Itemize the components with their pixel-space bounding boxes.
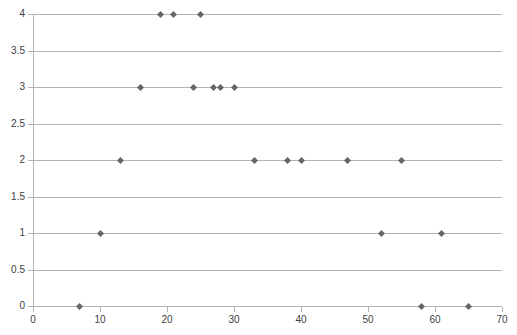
y-axis-tick-label: 2 [0,155,25,165]
y-tick-mark [28,160,33,161]
x-axis-tick-label: 70 [482,315,517,325]
x-tick-mark [502,307,503,312]
x-axis-tick-label: 30 [214,315,254,325]
y-tick-mark [28,14,33,15]
x-axis-tick-label: 60 [415,315,455,325]
x-tick-mark [33,307,34,312]
x-tick-mark [435,307,436,312]
x-tick-mark [234,307,235,312]
y-tick-mark [28,270,33,271]
x-axis-tick-label: 40 [281,315,321,325]
scatter-chart: 00.511.522.533.54010203040506070 [0,0,517,335]
x-axis-tick-label: 20 [147,315,187,325]
x-axis-tick-label: 10 [80,315,120,325]
y-tick-mark [28,233,33,234]
axis-labels-layer: 00.511.522.533.54010203040506070 [0,0,517,335]
y-axis-tick-label: 3 [0,82,25,92]
y-tick-mark [28,87,33,88]
x-tick-mark [301,307,302,312]
y-axis-tick-label: 1.5 [0,192,25,202]
y-axis-tick-label: 4 [0,9,25,19]
x-tick-mark [368,307,369,312]
y-tick-mark [28,51,33,52]
x-axis-tick-label: 50 [348,315,388,325]
y-axis-tick-label: 1 [0,228,25,238]
y-axis-tick-label: 3.5 [0,46,25,56]
y-axis-tick-label: 0 [0,301,25,311]
y-axis-tick-label: 2.5 [0,119,25,129]
y-axis-tick-label: 0.5 [0,265,25,275]
x-tick-mark [167,307,168,312]
x-axis-tick-label: 0 [13,315,53,325]
x-tick-mark [100,307,101,312]
y-tick-mark [28,124,33,125]
y-tick-mark [28,197,33,198]
